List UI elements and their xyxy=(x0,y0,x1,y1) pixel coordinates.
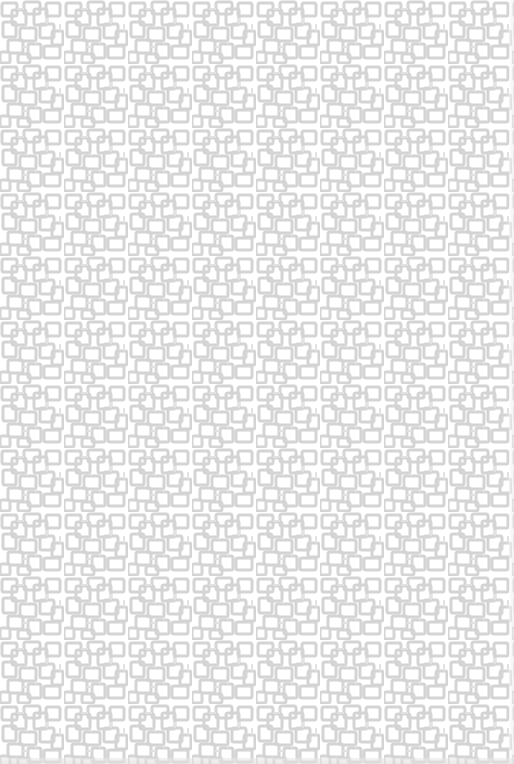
bottom-edge-shade xyxy=(0,758,514,764)
geometric-pattern-texture xyxy=(0,0,514,764)
right-edge-shade xyxy=(509,0,514,764)
pattern-canvas xyxy=(0,0,514,764)
